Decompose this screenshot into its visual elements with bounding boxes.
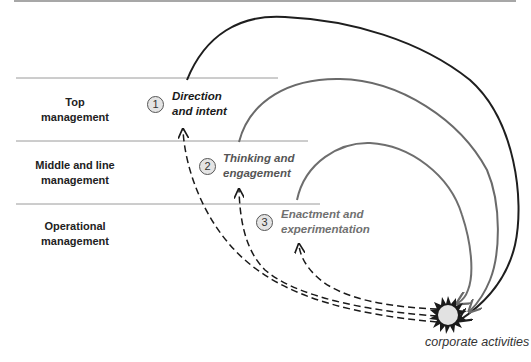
diagram-canvas: Top management Middle and line managemen… — [0, 0, 531, 362]
level-label-line: Operational — [0, 219, 150, 234]
stage-label-line: Thinking and — [223, 151, 295, 166]
level-label-line: management — [0, 173, 150, 188]
stage-number-badge: 1 — [147, 96, 164, 113]
level-label-line: management — [0, 234, 150, 249]
arc-thinking — [239, 79, 498, 311]
level-label-line: management — [0, 110, 150, 125]
stage-direction-and-intent: Direction and intent — [172, 89, 227, 119]
stage-enactment-and-experimentation: Enactment and experimentation — [281, 207, 370, 237]
stage-label-line: and intent — [172, 104, 227, 119]
stage-label-line: engagement — [223, 166, 295, 181]
corporate-activities-label: corporate activities — [425, 335, 529, 349]
level-label-line: Top — [0, 95, 150, 110]
stage-number-badge: 2 — [199, 158, 216, 175]
level-label-line: Middle and line — [0, 158, 150, 173]
level-middle-management: Middle and line management — [0, 158, 150, 188]
stage-thinking-and-engagement: Thinking and engagement — [223, 151, 295, 181]
stage-label-line: experimentation — [281, 222, 370, 237]
level-top-management: Top management — [0, 95, 150, 125]
stage-number-badge: 3 — [256, 214, 273, 231]
level-operational-management: Operational management — [0, 219, 150, 249]
stage-label-line: Direction — [172, 89, 227, 104]
stage-label-line: Enactment and — [281, 207, 370, 222]
dashed-feedback-enactment — [299, 245, 437, 309]
